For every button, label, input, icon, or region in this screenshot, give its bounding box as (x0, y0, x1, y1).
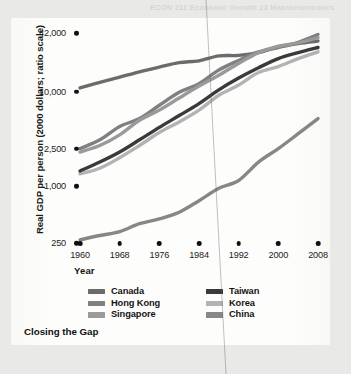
x-axis-tick-label: 1992 (229, 250, 249, 260)
series-lines (78, 28, 322, 245)
y-axis-tick-dot (74, 184, 79, 189)
y-axis-tick-dot (74, 146, 79, 151)
legend-color-swatch (88, 301, 105, 306)
x-axis-tick-dot (157, 241, 162, 246)
line-series-singapore (80, 38, 318, 152)
x-axis-tick-label: 1968 (110, 250, 130, 260)
y-axis-tick-label: 42,000 (39, 28, 66, 38)
page-bleedthrough-text: ECON 211 Economic Growth 23 Macroeconomi… (150, 3, 351, 14)
x-axis-tick-label: 2000 (269, 250, 289, 260)
figure-caption: Closing the Gap (24, 326, 98, 337)
legend-color-swatch (206, 289, 223, 294)
x-axis-tick-dot (276, 241, 281, 246)
y-axis-tick-label: 1,000 (44, 181, 66, 191)
x-axis-tick-dot (197, 241, 202, 246)
legend-item-label: Taiwan (229, 286, 259, 296)
legend-color-swatch (206, 312, 223, 317)
legend-color-swatch (206, 301, 223, 306)
x-axis-tick-dot (236, 241, 241, 246)
x-axis-tick-dot (78, 241, 83, 246)
plot-area: 42,00010,0002,5001,000250196019681976198… (78, 28, 322, 245)
x-axis-title: Year (74, 265, 95, 276)
legend: CanadaHong KongSingaporeTaiwanKoreaChina (88, 286, 308, 322)
legend-item-label: Canada (111, 286, 144, 296)
figure-page: ECON 211 Economic Growth 23 Macroeconomi… (0, 0, 351, 374)
legend-color-swatch (88, 289, 105, 294)
y-axis-tick-dot (74, 90, 79, 95)
x-axis-tick-label: 1960 (70, 250, 90, 260)
legend-item-label: Korea (229, 298, 255, 308)
x-axis-tick-dot (117, 241, 122, 246)
y-axis-title: Real GDP per person (2000 dollars; ratio… (34, 20, 45, 240)
x-axis-tick-label: 1984 (189, 250, 209, 260)
legend-item-label: Singapore (111, 309, 156, 319)
y-axis-tick-dot (74, 31, 79, 36)
legend-item-label: China (229, 309, 254, 319)
y-axis-tick-label: 10,000 (39, 87, 66, 97)
legend-color-swatch (88, 312, 105, 317)
x-axis-tick-dot (316, 241, 321, 246)
y-axis-tick-label: 2,500 (44, 144, 66, 154)
x-axis-tick-label: 1976 (150, 250, 170, 260)
line-series-hong-kong (80, 34, 318, 148)
x-axis-tick-label: 2008 (308, 250, 328, 260)
y-axis-tick-label: 250 (51, 238, 66, 248)
legend-item-label: Hong Kong (111, 298, 160, 308)
